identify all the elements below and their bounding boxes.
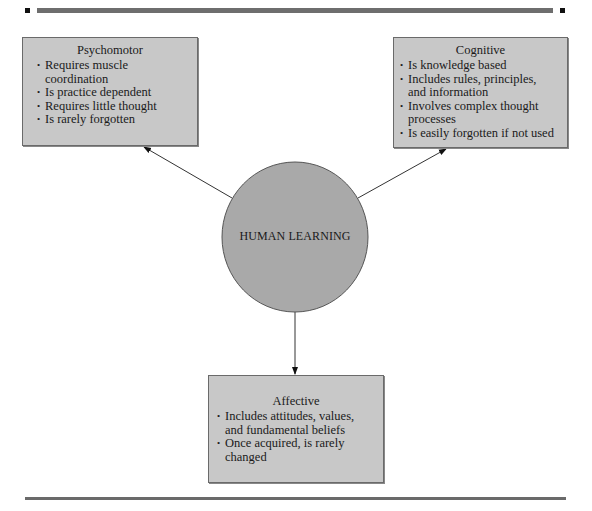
affective-box: Affective Includes attitudes, values, an… bbox=[208, 375, 384, 483]
cognitive-title: Cognitive bbox=[394, 43, 567, 58]
cognitive-list: Is knowledge based Includes rules, princ… bbox=[394, 59, 567, 140]
list-item: Is rarely forgotten bbox=[37, 113, 197, 127]
psychomotor-title: Psychomotor bbox=[23, 43, 197, 58]
cognitive-box: Cognitive Is knowledge based Includes ru… bbox=[393, 37, 568, 148]
arrow-to-psychomotor bbox=[144, 147, 232, 198]
human-learning-label: HUMAN LEARNING bbox=[222, 229, 368, 244]
psychomotor-box: Psychomotor Requires muscle coordination… bbox=[22, 37, 198, 146]
psychomotor-list: Requires muscle coordination Is practice… bbox=[23, 59, 197, 127]
bottom-rule bbox=[25, 497, 566, 500]
list-item: Includes attitudes, values, and fundamen… bbox=[217, 410, 375, 437]
list-item: Once acquired, is rarely changed bbox=[217, 437, 360, 464]
arrow-to-cognitive bbox=[358, 149, 446, 198]
list-item: Is practice dependent bbox=[37, 86, 197, 100]
list-item: Is knowledge based bbox=[400, 59, 567, 73]
list-item: Is easily forgotten if not used bbox=[400, 127, 567, 141]
list-item: Involves complex thought processes bbox=[400, 100, 550, 127]
list-item: Includes rules, principles, and informat… bbox=[400, 73, 556, 100]
list-item: Requires little thought bbox=[37, 100, 197, 114]
affective-title: Affective bbox=[209, 394, 383, 409]
affective-list: Includes attitudes, values, and fundamen… bbox=[209, 410, 383, 464]
list-item: Requires muscle coordination bbox=[37, 59, 165, 86]
